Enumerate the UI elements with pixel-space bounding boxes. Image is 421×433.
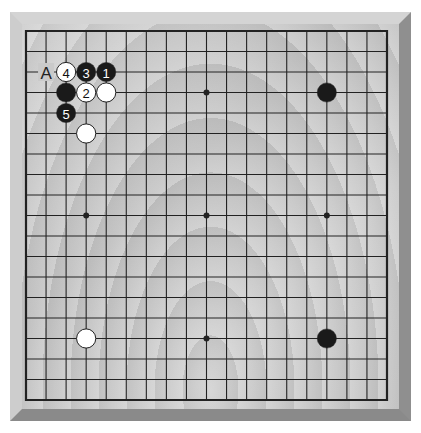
black-stone[interactable]: 1 — [97, 62, 116, 81]
black-stone[interactable] — [57, 83, 76, 102]
go-board[interactable]: A 12345 — [0, 0, 421, 433]
black-stone[interactable]: 5 — [57, 103, 76, 122]
white-stone[interactable] — [77, 329, 96, 348]
star-point — [204, 336, 210, 342]
stone-body — [317, 329, 336, 348]
move-number: 2 — [83, 86, 90, 101]
black-stone[interactable] — [317, 329, 336, 348]
move-number: 1 — [103, 66, 110, 81]
star-point — [324, 213, 330, 219]
stones: 12345 — [57, 62, 337, 348]
stone-body — [317, 83, 336, 102]
stone-body — [77, 124, 96, 143]
stone-body — [77, 329, 96, 348]
white-stone[interactable]: 4 — [57, 62, 76, 81]
board-mark-label: A — [40, 64, 52, 83]
stone-body — [97, 83, 116, 102]
star-point — [83, 213, 89, 219]
black-stone[interactable] — [317, 83, 336, 102]
white-stone[interactable] — [97, 83, 116, 102]
white-stone[interactable]: 2 — [77, 83, 96, 102]
star-point — [204, 213, 210, 219]
black-stone[interactable]: 3 — [77, 62, 96, 81]
move-number: 4 — [62, 66, 69, 81]
move-number: 3 — [83, 66, 90, 81]
stone-body — [57, 83, 76, 102]
board-marks: A — [38, 63, 54, 83]
white-stone[interactable] — [77, 124, 96, 143]
star-point — [204, 90, 210, 96]
move-number: 5 — [62, 107, 69, 122]
